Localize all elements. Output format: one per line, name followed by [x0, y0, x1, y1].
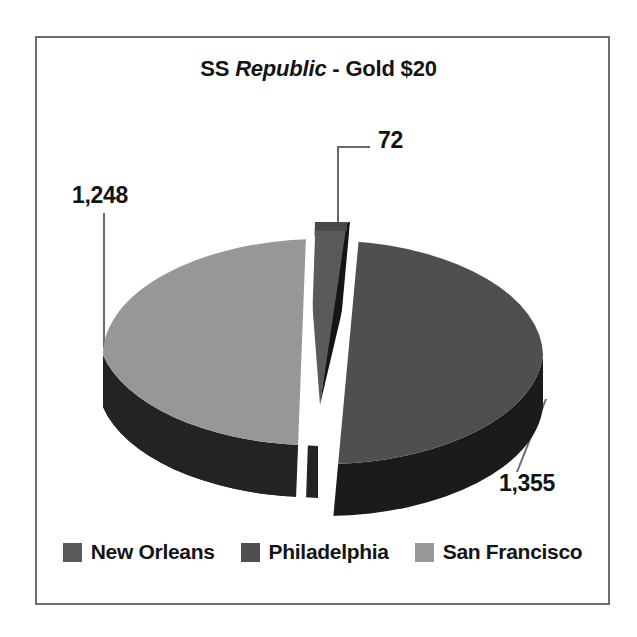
legend-item-new-orleans[interactable]: New Orleans	[63, 540, 215, 564]
chart-legend: New Orleans Philadelphia San Francisco	[35, 540, 610, 564]
pie-chart-figure: SS Republic - Gold $20	[0, 0, 637, 637]
chart-title-prefix: SS	[200, 56, 235, 81]
chart-title: SS Republic - Gold $20	[0, 56, 637, 82]
data-label-new-orleans: 72	[378, 127, 403, 154]
legend-swatch-san-francisco	[415, 543, 434, 562]
legend-label-philadelphia: Philadelphia	[269, 540, 389, 564]
legend-item-san-francisco[interactable]: San Francisco	[415, 540, 583, 564]
legend-swatch-philadelphia	[241, 543, 260, 562]
legend-swatch-new-orleans	[63, 543, 82, 562]
chart-title-suffix: - Gold $20	[326, 56, 436, 81]
data-label-san-francisco: 1,248	[72, 182, 128, 209]
legend-label-san-francisco: San Francisco	[443, 540, 583, 564]
chart-frame-border	[35, 36, 610, 605]
legend-item-philadelphia[interactable]: Philadelphia	[241, 540, 389, 564]
data-label-philadelphia: 1,355	[499, 470, 555, 497]
legend-label-new-orleans: New Orleans	[91, 540, 215, 564]
chart-title-italic: Republic	[235, 56, 326, 81]
